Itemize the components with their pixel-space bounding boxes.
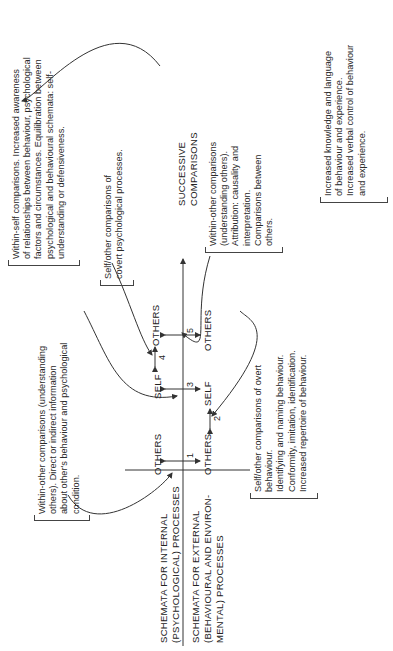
number-3: 3: [185, 382, 195, 387]
axis-label: SUCCESSIVE COMPARISONS: [176, 132, 200, 206]
number-2: 2: [212, 416, 222, 421]
annotation-box-increased-knowledge: [320, 202, 388, 203]
node-2-right-self: SELF: [202, 381, 213, 406]
node-1-bottom-others: OTHERS: [202, 434, 213, 475]
schemata-external-label: SCHEMATA FOR EXTERNAL (BEHAVIOURAL AND E…: [190, 495, 226, 643]
number-4: 4: [157, 355, 167, 360]
node-5-bottom-others: OTHERS: [202, 310, 213, 351]
annotation-box-within-self: [8, 265, 80, 266]
annotation-within-other-internal: Within-other comparisons (understanding …: [37, 343, 82, 514]
annotation-increased-knowledge: Increased knowledge and language of beha…: [323, 45, 368, 196]
annotation-self-other-covert: Self/other comparisons of covert psychol…: [103, 149, 125, 279]
annotation-box-within-other-external: [205, 252, 283, 253]
annotation-box-self-other-overt: [250, 498, 318, 499]
annotation-box-within-other-internal: [34, 520, 90, 521]
node-1-top-others: OTHERS: [152, 434, 163, 475]
node-3-top-self: SELF: [152, 374, 163, 399]
number-5: 5: [185, 328, 195, 333]
annotation-self-other-overt: Self/other comparisons of overt behaviou…: [253, 350, 309, 492]
schemata-internal-label: SCHEMATA FOR INTERNAL (PSYCHOLOGICAL) PR…: [158, 486, 182, 643]
rotated-diagram: SUCCESSIVE COMPARISONS SCHEMATA FOR INTE…: [0, 0, 393, 651]
annotation-within-other-external: Within-other comparisons (understanding …: [208, 142, 275, 246]
annotation-box-self-other-covert: [100, 285, 134, 286]
number-1: 1: [185, 453, 195, 458]
annotation-within-self: Within-self comparisons. Increased aware…: [11, 57, 67, 259]
node-4-right-others: OTHERS: [150, 305, 161, 346]
